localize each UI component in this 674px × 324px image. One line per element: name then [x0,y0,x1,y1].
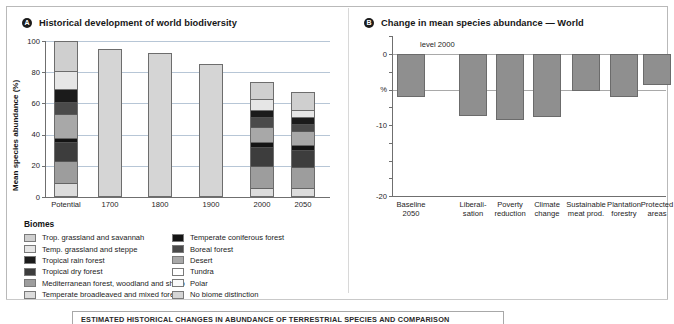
legend-item[interactable]: Polar [172,278,284,289]
legend-swatch [24,291,36,299]
legend-label: Tropical dry forest [42,267,103,276]
bar-segment [251,128,273,144]
panel-a-title: Historical development of world biodiver… [39,18,237,28]
panel-a-marker-icon: A [22,18,32,28]
bar-segment [55,162,77,184]
legend-label: No biome distinction [190,290,258,299]
bar-segment [292,168,314,188]
bar-segment [292,93,314,110]
panel-b-marker-icon: B [364,18,374,28]
level-2000-annotation: level 2000 [420,40,455,49]
bar-segment [200,65,222,197]
legend-swatch [172,268,184,276]
legend-swatch [172,256,184,264]
panel-b-title: Change in mean species abundance — World [381,18,584,28]
panel-b-header: B Change in mean species abundance — Wor… [364,18,584,28]
y-tick-label: 100 [17,37,40,46]
legend-label: Temp. grassland and steppe [42,245,137,254]
y-tick-label: 20 [17,161,40,170]
legend-label: Boreal forest [190,245,233,254]
legend-item[interactable]: Boreal forest [172,243,284,254]
legend-label: Tropical rain forest [42,256,105,265]
caption-box: ESTIMATED HISTORICAL CHANGES IN ABUNDANC… [72,311,504,324]
stacked-bar[interactable] [148,53,172,197]
bar-segment [292,111,314,119]
stacked-bar[interactable] [98,49,122,197]
bar-segment [292,125,314,133]
caption-text: ESTIMATED HISTORICAL CHANGES IN ABUNDANC… [81,315,450,324]
bar-segment [55,143,77,162]
legend-swatch [24,268,36,276]
stacked-bar[interactable] [54,41,78,197]
change-bar[interactable] [610,54,638,97]
bar-segment [251,118,273,127]
legend-item[interactable]: Temperate coniferous forest [172,232,284,243]
stacked-bar[interactable] [199,64,223,197]
y-tick-label: 80 [17,68,40,77]
legend-item[interactable]: Desert [172,255,284,266]
gridline [45,166,330,167]
change-bar[interactable] [643,54,671,85]
bar-segment [55,184,77,197]
y-axis-line [392,36,393,196]
gridline [45,103,330,104]
gridline [45,41,330,42]
stacked-bar[interactable] [291,92,315,197]
legend-item[interactable]: Temp. grassland and steppe [24,243,185,254]
y-axis-cap-tick [389,36,392,37]
change-bar[interactable] [459,54,487,116]
bar-segment [149,54,171,197]
legend-item[interactable]: Trop. grassland and savannah [24,232,185,243]
bar-segment [251,83,273,100]
change-bar[interactable] [496,54,524,120]
legend-item[interactable]: No biome distinction [172,289,284,300]
bar-segment [55,115,77,138]
legend-title: Biomes [24,219,54,229]
bar-segment [99,50,121,197]
bar-segment [55,72,77,91]
stacked-bar[interactable] [250,82,274,197]
legend-swatch [24,279,36,287]
change-bar[interactable] [397,54,425,97]
bar-segment [251,148,273,167]
y-axis-title: Mean species abundance (%) [11,80,20,191]
legend-label: Tundra [190,267,214,276]
y-tick-label: % [365,85,387,94]
frame-border-right [667,6,668,300]
legend-item[interactable]: Tropical rain forest [24,255,185,266]
legend-swatch [172,291,184,299]
legend-swatch [172,245,184,253]
legend-label: Mediterranean forest, woodland and shrub [42,279,185,288]
legend-swatch [24,256,36,264]
legend-label: Trop. grassland and savannah [42,233,144,242]
legend-label: Polar [190,279,208,288]
bar-segment [292,132,314,146]
change-bar[interactable] [572,54,600,91]
frame-border-left [6,6,7,300]
legend-item[interactable]: Mediterranean forest, woodland and shrub [24,278,185,289]
legend-swatch [24,245,36,253]
bar-segment [55,42,77,72]
x-axis-line [45,197,330,198]
y-tick-label: 40 [17,130,40,139]
x-tick-label: 2050 [273,201,333,210]
y-tick-label: 0 [365,50,387,59]
change-bar[interactable] [533,54,561,116]
panel-a-header: A Historical development of world biodiv… [22,18,237,28]
legend-label: Desert [190,256,212,265]
legend-label: Temperate broadleaved and mixed forest [42,290,180,299]
legend-swatch [24,234,36,242]
panel-divider [348,8,349,293]
gridline [45,72,330,73]
bar-segment [251,189,273,197]
y-axis-line [45,41,46,197]
legend-item[interactable]: Tropical dry forest [24,266,185,277]
legend-swatch [172,234,184,242]
bar-segment [292,151,314,168]
legend-column-left: Trop. grassland and savannah Temp. grass… [24,232,185,300]
legend-item[interactable]: Temperate broadleaved and mixed forest [24,289,185,300]
bar-segment [251,111,273,119]
y-tick-label: -10 [365,121,387,130]
legend-item[interactable]: Tundra [172,266,284,277]
